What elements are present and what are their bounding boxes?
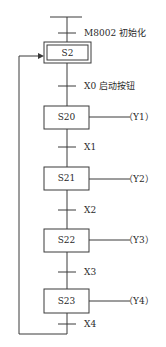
transition-x4-label: X4 (84, 319, 96, 329)
output-y2: （Y2） (124, 174, 154, 184)
output-y4: （Y4） (124, 296, 154, 306)
transition-x1-label: X1 (84, 142, 96, 152)
step-s20-label: S20 (44, 112, 89, 122)
transition-x0-label: X0 启动按钮 (84, 81, 135, 91)
output-y1: （Y1） (124, 112, 154, 122)
step-s2-label: S2 (47, 48, 88, 58)
output-y3: （Y3） (124, 235, 154, 245)
transition-x3-label: X3 (84, 267, 96, 277)
transition-x2-label: X2 (84, 205, 96, 215)
transition-m8002-label: M8002 初始化 (84, 28, 146, 38)
loop-back-line (19, 56, 67, 334)
step-s21-label: S21 (44, 173, 89, 183)
arrow-icon (38, 53, 44, 59)
step-s23-label: S23 (44, 296, 89, 306)
step-s22-label: S22 (44, 235, 89, 245)
